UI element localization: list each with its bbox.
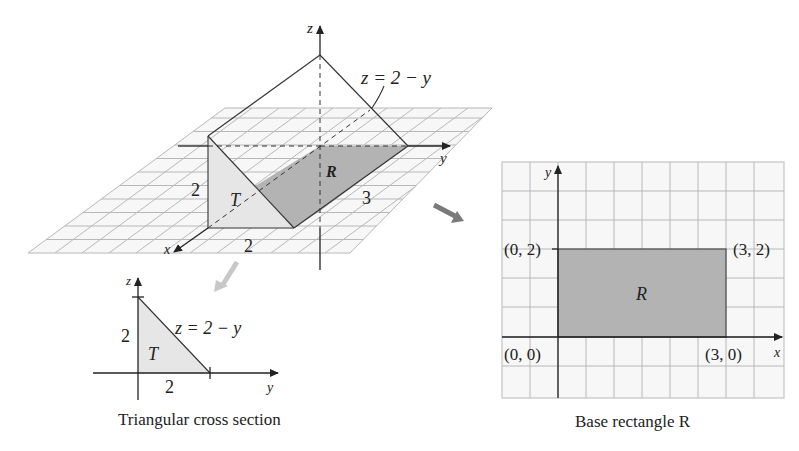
surface-equation-label: z = 2 − y (360, 67, 432, 88)
corner-label-3-0: (3, 0) (705, 345, 742, 364)
y-axis-label-3d: y (438, 150, 447, 166)
length-dimension-3d: 3 (362, 188, 371, 208)
y-axis-label-2d: y (265, 380, 274, 395)
z-axis-label-3d: z (306, 20, 313, 36)
corner-label-0-0: (0, 0) (504, 345, 541, 364)
base-rectangle-caption: Base rectangle R (575, 412, 690, 432)
cross-section-caption: Triangular cross section (118, 410, 281, 430)
diagram-canvas: z y x z = 2 − y R T 2 2 3 z y z = 2 − y … (0, 0, 799, 451)
arrow-to-cross-section (214, 262, 237, 292)
z-axis-label-2d: z (125, 273, 131, 288)
arrow-to-base-rectangle (434, 205, 464, 223)
cross-section-equation: z = 2 − y (174, 318, 241, 338)
base-label-2d: 2 (165, 377, 174, 397)
corner-label-0-2: (0, 2) (504, 240, 541, 259)
height-dimension-3d: 2 (191, 180, 200, 200)
grid-plane-3d (0, 108, 522, 253)
x-axis-label-3d: x (163, 242, 171, 257)
width-dimension-3d: 2 (244, 236, 253, 256)
y-axis-label-rect: y (543, 165, 552, 180)
height-label-2d: 2 (121, 326, 130, 346)
x-axis-label-rect: x (773, 345, 781, 360)
region-r-label-3d: R (325, 163, 337, 180)
corner-label-3-2: (3, 2) (733, 240, 770, 259)
region-r-label-2d: R (635, 284, 647, 304)
